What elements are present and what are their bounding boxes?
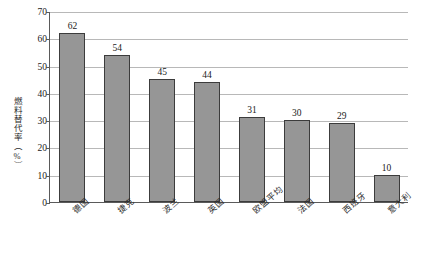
y-axis-title: 燃料替代率（%）	[9, 78, 25, 188]
bar[interactable]	[194, 82, 220, 202]
y-axis-tick-label: 0	[25, 198, 47, 208]
bar-value-label: 30	[292, 108, 302, 118]
x-axis-tick-slot: 欧盟平均	[229, 205, 274, 261]
x-axis-tick-slot: 法国	[273, 205, 318, 261]
x-axis-tick-slot: 德国	[49, 205, 94, 261]
bar-slot: 62	[50, 12, 95, 202]
bar-value-label: 54	[113, 43, 123, 53]
x-axis-tick-slot: 波兰	[139, 205, 184, 261]
bar-chart: 燃料替代率（%） 706050403020100 625445443130291…	[0, 0, 428, 263]
bar[interactable]	[104, 55, 130, 202]
bar-slot: 45	[140, 12, 185, 202]
plot-area: 6254454431302910	[49, 12, 408, 203]
bars-layer: 6254454431302910	[50, 12, 408, 202]
y-axis-tick-label: 20	[25, 143, 47, 153]
x-axis-tick-slot: 捷克	[94, 205, 139, 261]
y-axis-tick-label: 70	[25, 7, 47, 17]
x-axis-tick-slot: 英国	[184, 205, 229, 261]
bar-value-label: 31	[247, 105, 257, 115]
bar-slot: 54	[95, 12, 140, 202]
bar-slot: 44	[185, 12, 230, 202]
x-axis-tick-labels: 德国捷克波兰英国欧盟平均法国西班牙意大利	[49, 205, 408, 261]
bar[interactable]	[239, 117, 265, 202]
y-axis-tick-labels: 706050403020100	[25, 12, 47, 203]
bar-value-label: 10	[382, 163, 392, 173]
y-axis-tick-mark	[46, 203, 50, 204]
bar-value-label: 62	[68, 21, 78, 31]
bar[interactable]	[59, 33, 85, 202]
x-axis-tick-slot: 意大利	[363, 205, 408, 261]
bar-value-label: 29	[337, 111, 347, 121]
x-axis-tick-slot: 西班牙	[318, 205, 363, 261]
y-axis-tick-label: 40	[25, 89, 47, 99]
bar-slot: 29	[319, 12, 364, 202]
bar-value-label: 45	[157, 67, 167, 77]
bar[interactable]	[284, 120, 310, 202]
y-axis-tick-label: 10	[25, 171, 47, 181]
bar[interactable]	[149, 79, 175, 202]
y-axis-tick-label: 60	[25, 34, 47, 44]
y-axis-tick-label: 30	[25, 116, 47, 126]
bar-slot: 10	[364, 12, 409, 202]
bar[interactable]	[329, 123, 355, 202]
bar-value-label: 44	[202, 70, 212, 80]
bar-slot: 30	[274, 12, 319, 202]
y-axis-tick-label: 50	[25, 62, 47, 72]
bar-slot: 31	[230, 12, 275, 202]
